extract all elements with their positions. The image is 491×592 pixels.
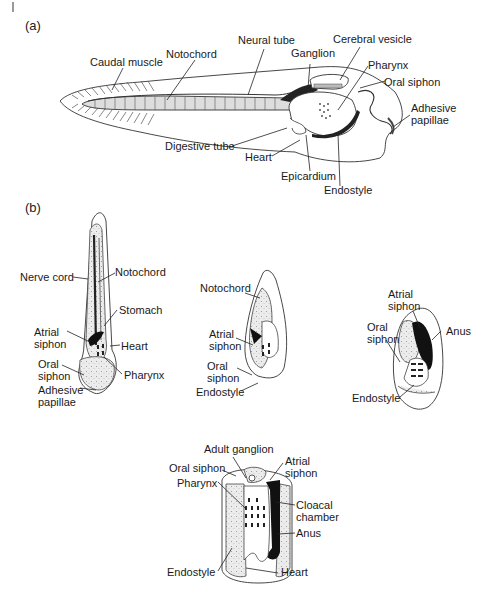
label-heart: Heart	[121, 340, 148, 352]
label-oral-siphon: Oral siphon	[367, 321, 399, 345]
label-stomach: Stomach	[119, 304, 162, 316]
label-atrial-siphon: Atrial siphon	[209, 328, 241, 352]
label-anus: Anus	[446, 325, 471, 337]
label-neural-tube: Neural tube	[238, 34, 295, 46]
label-heart: Heart	[281, 566, 308, 578]
stage1-drawing	[62, 213, 122, 394]
label-pharynx: Pharynx	[124, 369, 164, 381]
label-endostyle: Endostyle	[196, 386, 244, 398]
label-oral-siphon: Oral siphon	[169, 462, 225, 474]
label-notochord: Notochord	[200, 282, 251, 294]
label-oral-siphon: Oral siphon	[207, 360, 239, 384]
label-nerve-cord: Nerve cord	[20, 271, 74, 283]
label-pharynx: Pharynx	[368, 59, 408, 71]
label-oral-siphon: Oral siphon	[384, 76, 440, 88]
label-pharynx: Pharynx	[177, 477, 217, 489]
label-endostyle: Endostyle	[324, 184, 372, 196]
label-ganglion: Ganglion	[291, 47, 335, 59]
label-adhesive-papillae: Adhesive papillae	[411, 102, 456, 126]
label-atrial-siphon: Atrial siphon	[388, 288, 420, 312]
label-adhesive-papillae: Adhesive papillae	[38, 384, 83, 408]
label-heart: Heart	[245, 151, 272, 163]
panel-a-label: (a)	[25, 18, 41, 33]
label-endostyle: Endostyle	[352, 392, 400, 404]
label-cloacal-chamber: Cloacal chamber	[296, 499, 339, 523]
label-caudal-muscle: Caudal muscle	[90, 56, 163, 68]
label-atrial-siphon: Atrial siphon	[34, 326, 66, 350]
label-cerebral-vesicle: Cerebral vesicle	[333, 33, 412, 45]
label-notochord: Notochord	[115, 266, 166, 278]
label-adult-ganglion: Adult ganglion	[204, 443, 274, 455]
label-endostyle: Endostyle	[167, 566, 215, 578]
label-anus: Anus	[296, 527, 321, 539]
label-atrial-siphon: Atrial siphon	[285, 455, 317, 479]
label-oral-siphon: Oral siphon	[38, 358, 70, 382]
label-notochord: Notochord	[166, 48, 217, 60]
panel-b-label: (b)	[25, 200, 41, 215]
label-epicardium: Epicardium	[281, 170, 336, 182]
label-digestive-tube: Digestive tube	[165, 140, 235, 152]
adult-drawing	[218, 457, 295, 583]
